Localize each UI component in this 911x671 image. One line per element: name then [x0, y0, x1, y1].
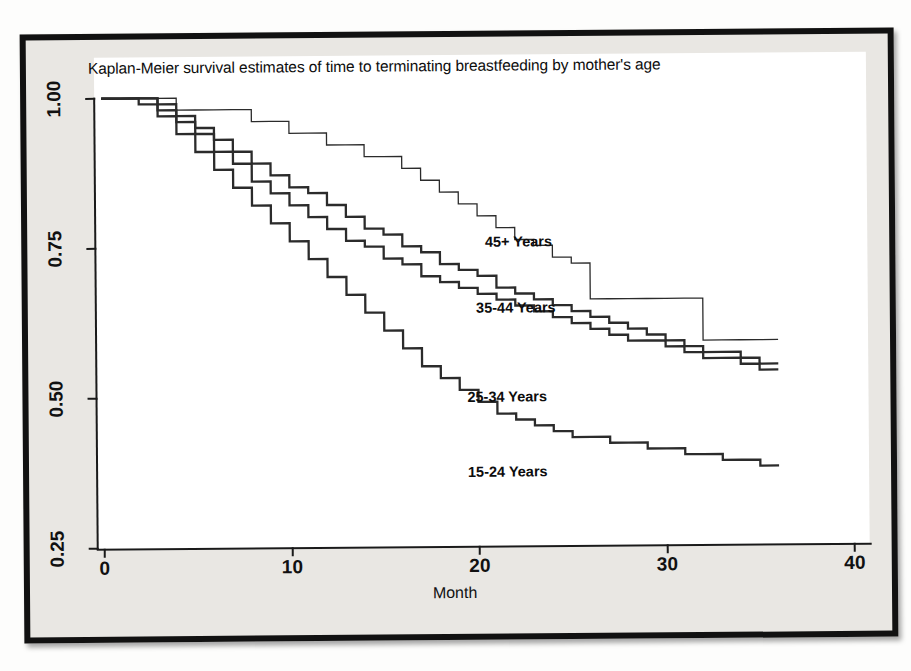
- curve-label-25-34-years: 25-34 Years: [467, 388, 547, 405]
- survival-curves: [22, 30, 885, 630]
- curve-label-35-44-years: 35-44 Years: [476, 299, 556, 316]
- scanned-page: (L)n Hbveiednieuredar Child Gender Kapla…: [0, 0, 911, 671]
- survival-curve-25-34-years: [101, 93, 778, 374]
- chart-figure: Kaplan-Meier survival estimates of time …: [22, 30, 885, 630]
- curve-label-45-years: 45+ Years: [485, 233, 552, 250]
- survival-curve-45-years: [101, 93, 778, 344]
- curve-label-15-24-years: 15-24 Years: [468, 463, 548, 480]
